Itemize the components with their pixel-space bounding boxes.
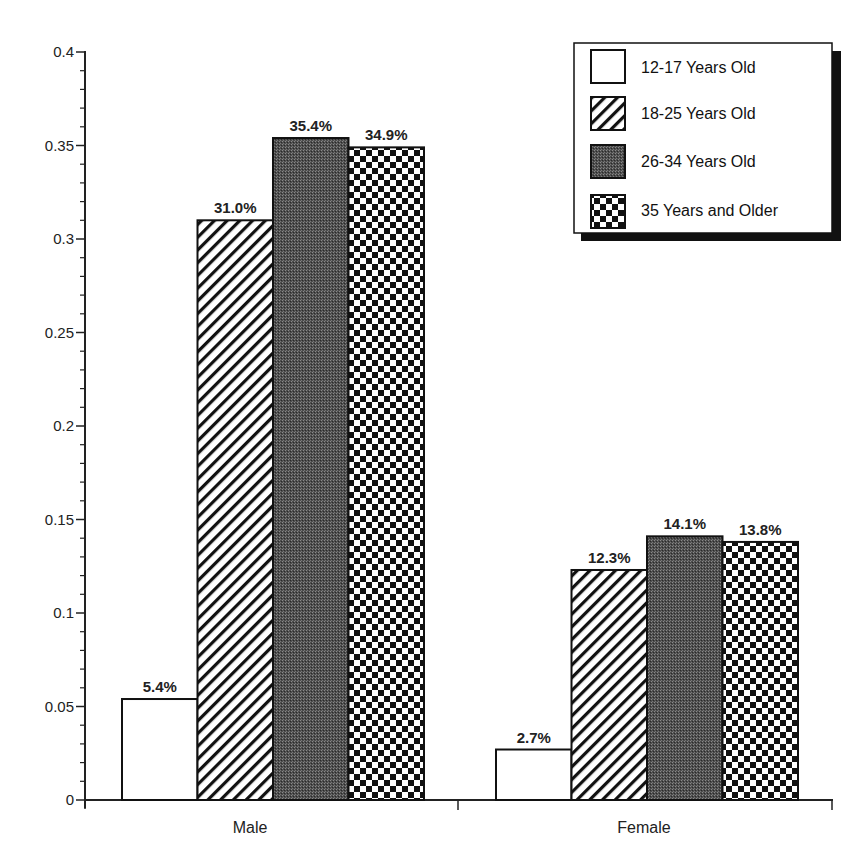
y-tick-label: 0.4 [53,43,74,60]
legend-label-26-34: 26-34 Years Old [641,153,756,170]
legend-swatch-35-plus [591,195,625,228]
bar-value-label: 2.7% [517,729,551,746]
legend-swatch-12-17 [591,50,625,83]
bar-value-label: 34.9% [365,126,408,143]
y-tick-label: 0.3 [53,230,74,247]
y-tick-label: 0.05 [45,698,74,715]
x-category-label-female: Female [617,819,670,836]
legend-label-12-17: 12-17 Years Old [641,59,756,76]
y-tick-label: 0.1 [53,604,74,621]
x-category-label-male: Male [233,819,268,836]
legend-swatch-18-25 [591,97,625,130]
legend-label-18-25: 18-25 Years Old [641,105,756,122]
x-axis: Male Female [84,800,833,836]
bar [273,138,349,800]
y-axis-major-ticks: 00.050.10.150.20.250.30.350.4 [45,43,85,808]
bar [496,750,572,800]
bar-value-label: 12.3% [588,549,631,566]
bar-chart: 00.050.10.150.20.250.30.350.4 Male Femal… [0,0,868,860]
legend-label-35-plus: 35 Years and Older [641,202,779,219]
legend: 12-17 Years Old 18-25 Years Old 26-34 Ye… [574,43,841,241]
bar [198,220,274,800]
y-tick-label: 0 [66,791,74,808]
y-axis: 00.050.10.150.20.250.30.350.4 [45,43,85,808]
y-tick-label: 0.35 [45,137,74,154]
legend-swatch-26-34 [591,145,625,178]
bar [647,536,723,800]
bar-group-female: 2.7%12.3%14.1%13.8% [496,515,798,800]
y-tick-label: 0.2 [53,417,74,434]
y-tick-label: 0.15 [45,511,74,528]
bar [572,570,648,800]
bar [349,147,425,800]
bar [122,699,198,800]
bar [723,542,799,800]
y-tick-label: 0.25 [45,324,74,341]
bar-value-label: 31.0% [214,199,257,216]
bar-value-label: 35.4% [289,117,332,134]
bar-value-label: 13.8% [739,521,782,538]
bar-value-label: 5.4% [143,678,177,695]
bar-value-label: 14.1% [663,515,706,532]
bar-group-male: 5.4%31.0%35.4%34.9% [122,117,424,800]
